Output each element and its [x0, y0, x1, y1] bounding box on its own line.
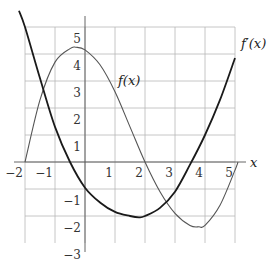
- svg-text:4: 4: [195, 166, 203, 180]
- svg-text:−2: −2: [63, 221, 81, 235]
- svg-text:1: 1: [105, 166, 113, 180]
- svg-text:−2: −2: [5, 166, 23, 180]
- svg-text:2: 2: [135, 166, 143, 180]
- svg-text:3: 3: [165, 166, 173, 180]
- svg-text:5: 5: [73, 32, 81, 46]
- svg-text:−1: −1: [63, 194, 81, 208]
- svg-text:−1: −1: [35, 166, 53, 180]
- svg-text:4: 4: [73, 59, 81, 73]
- f-prime-curve: [19, 11, 235, 218]
- svg-text:3: 3: [73, 86, 81, 100]
- x-axis-label: x: [250, 155, 258, 170]
- svg-text:1: 1: [73, 140, 81, 154]
- f-prime-curve-label: f′(x): [240, 36, 266, 51]
- svg-text:−3: −3: [63, 248, 81, 262]
- f-curve-label: f(x): [117, 73, 140, 88]
- function-graph: −2−11234554321−1−2−3 x f(x) f′(x): [0, 0, 276, 271]
- svg-text:2: 2: [73, 113, 81, 127]
